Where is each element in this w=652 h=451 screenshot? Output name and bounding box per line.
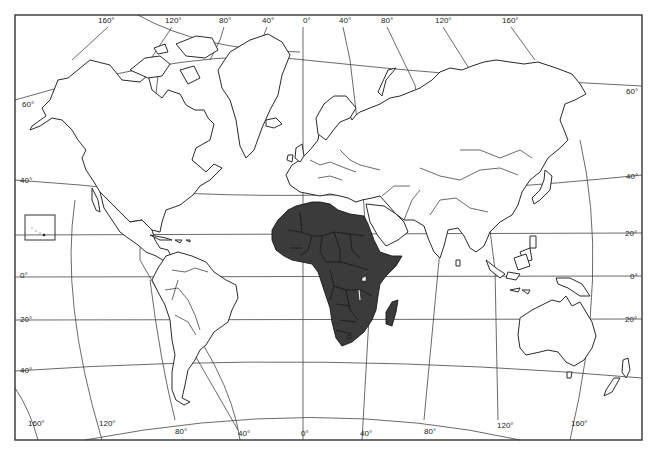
philippines	[530, 236, 536, 248]
sri-lanka	[456, 260, 460, 266]
lon-label-bottom: 120°	[99, 420, 116, 428]
lon-label-bottom: 120°	[497, 422, 514, 430]
lat-label-left: 40°	[20, 177, 32, 185]
lon-label-bottom: 40°	[360, 430, 372, 438]
oceania	[518, 296, 630, 396]
lat-label-right: 20°	[625, 316, 637, 324]
lon-label-top: 120°	[165, 17, 182, 25]
lon-label-bottom: 80°	[175, 428, 187, 436]
lon-label-bottom: 80°	[424, 428, 436, 436]
lat-label-right: 60°	[626, 88, 638, 96]
hawaii-islands	[43, 234, 46, 237]
lat-label-left: 20°	[20, 316, 32, 324]
lon-label-top: 160°	[98, 17, 115, 25]
lon-label-bottom: 40°	[238, 430, 250, 438]
lon-label-top: 160°	[502, 17, 519, 25]
hawaii-islet	[32, 228, 33, 229]
baja-california	[92, 188, 100, 212]
lon-label-top: 40°	[339, 17, 351, 25]
hawaii-islet	[36, 231, 37, 232]
parallel-40s	[15, 362, 642, 378]
south-america	[152, 252, 238, 405]
hawaii-inset	[25, 215, 55, 240]
world-map: 160° 120° 80° 40° 0° 40° 80° 120° 160° 1…	[0, 0, 652, 451]
lat-label-left: 60°	[22, 101, 34, 109]
lat-label-left: 0°	[20, 272, 28, 280]
lon-label-top: 80°	[219, 17, 231, 25]
lon-label-top: 80°	[381, 17, 393, 25]
australia	[518, 296, 596, 366]
lon-label-bottom: 160°	[571, 420, 588, 428]
greenland	[218, 34, 290, 158]
new-guinea	[556, 278, 590, 296]
novaya-zemlya	[378, 68, 396, 96]
madagascar	[386, 300, 398, 326]
alaska-canada	[30, 60, 222, 232]
map-canvas	[0, 0, 652, 451]
lon-label-top: 40°	[262, 17, 274, 25]
lat-label-left: 40°	[20, 367, 32, 375]
north-america	[30, 34, 290, 262]
lat-label-right: 40°	[626, 173, 638, 181]
hawaii-islet	[39, 232, 40, 233]
iceland	[266, 118, 282, 128]
lat-label-right: 0°	[630, 273, 638, 281]
lat-label-right: 20°	[625, 230, 637, 238]
lon-label-bottom: 0°	[301, 430, 309, 438]
lon-label-bottom: 160°	[28, 420, 45, 428]
britain	[287, 144, 304, 162]
lon-label-top: 120°	[435, 17, 452, 25]
new-zealand	[604, 358, 630, 396]
arctic-islands	[130, 36, 218, 84]
tasmania	[567, 372, 572, 378]
south-america-continent	[152, 252, 238, 405]
hawaii-inset-box	[25, 215, 55, 240]
lon-label-top: 0°	[303, 17, 311, 25]
